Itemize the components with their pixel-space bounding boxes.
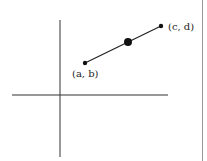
segment — [85, 26, 161, 63]
label-end: (c, d) — [168, 21, 194, 32]
label-start: (a, b) — [72, 68, 99, 79]
point-end — [159, 24, 163, 28]
point-start — [83, 61, 87, 65]
diagram-svg: (a, b) (c, d) — [0, 0, 207, 161]
point-midpoint — [124, 38, 132, 46]
midpoint-diagram: (a, b) (c, d) — [0, 0, 207, 161]
